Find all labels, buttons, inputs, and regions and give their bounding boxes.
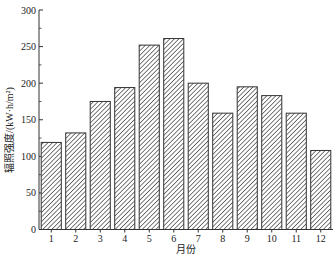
x-tick-label: 10 [267,233,277,244]
x-tick-label: 12 [316,233,326,244]
y-tick-label: 50 [26,187,36,198]
x-tick-label: 2 [73,233,78,244]
y-tick-label: 100 [21,151,36,162]
bar-month-5 [139,45,159,229]
bar-month-8 [213,113,233,229]
bar-month-3 [90,101,110,229]
x-axis-title: 月份 [176,244,196,255]
x-tick-label: 5 [147,233,152,244]
bar-chart: 050100150200250300 123456789101112 辐照强度/… [0,0,335,261]
bar-month-2 [66,133,86,230]
bar-month-11 [286,113,306,229]
y-tick-label: 0 [31,224,36,235]
x-tick-label: 11 [291,233,301,244]
y-tick-label: 200 [21,78,36,89]
bar-month-4 [115,88,135,230]
bar-month-1 [41,142,61,229]
x-tick-label: 6 [171,233,176,244]
x-tick-label: 8 [220,233,225,244]
bar-month-6 [164,39,184,230]
bars [41,39,331,230]
y-axis: 050100150200250300 [21,5,43,236]
bar-month-12 [311,150,331,229]
x-tick-label: 9 [245,233,250,244]
x-tick-label: 4 [122,233,127,244]
bar-month-9 [237,87,257,230]
y-tick-label: 150 [21,114,36,125]
y-tick-label: 250 [21,41,36,52]
x-tick-label: 1 [49,233,54,244]
bar-month-7 [188,83,208,229]
bar-month-10 [262,96,282,230]
y-tick-label: 300 [21,5,36,16]
y-axis-title: 辐照强度/(kW·h/m²) [3,87,16,173]
x-tick-label: 3 [98,233,103,244]
x-axis: 123456789101112 [39,230,333,244]
x-tick-label: 7 [196,233,201,244]
